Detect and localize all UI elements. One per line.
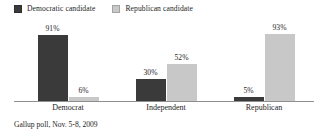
legend-entry-democratic: Democratic candidate <box>14 5 95 13</box>
bar-wrap-republican-democratic: 5% <box>234 22 264 101</box>
source-note: Gallup poll, Nov. 5-8, 2009 <box>14 121 98 129</box>
bar-value-label: 5% <box>243 87 253 95</box>
x-tick-label-republican: Republican <box>216 104 312 112</box>
bar-independent-republican <box>167 64 197 101</box>
bar-democrat-democratic <box>38 35 68 101</box>
bar-value-label: 52% <box>175 54 189 62</box>
legend-swatch-democratic <box>14 5 22 13</box>
legend-label-republican: Republican candidate <box>125 5 193 13</box>
x-axis-baseline <box>14 101 314 102</box>
bar-group-democrat: 91% 6% <box>20 22 116 101</box>
x-tick-label-democrat: Democrat <box>20 104 116 112</box>
x-axis-tick-labels: Democrat Independent Republican <box>14 104 314 116</box>
legend-label-democratic: Democratic candidate <box>27 5 95 13</box>
bar-wrap-democrat-democratic: 91% <box>38 22 68 101</box>
chart-legend: Democratic candidate Republican candidat… <box>0 0 328 18</box>
legend-entry-republican: Republican candidate <box>112 5 193 13</box>
bar-wrap-republican-republican: 93% <box>265 22 295 101</box>
bar-group-independent: 30% 52% <box>118 22 214 101</box>
bar-chart-figure: Democratic candidate Republican candidat… <box>0 0 328 136</box>
plot-area: 91% 6% 30% 52% 5% 93% <box>14 22 314 102</box>
legend-swatch-republican <box>112 5 120 13</box>
bar-wrap-democrat-republican: 6% <box>69 22 99 101</box>
bar-value-label: 93% <box>273 24 287 32</box>
bar-republican-republican <box>265 34 295 101</box>
bar-wrap-independent-republican: 52% <box>167 22 197 101</box>
x-tick-label-independent: Independent <box>118 104 214 112</box>
bar-value-label: 30% <box>144 69 158 77</box>
bar-independent-democratic <box>136 79 166 101</box>
bar-value-label: 91% <box>46 25 60 33</box>
bar-value-label: 6% <box>78 87 88 95</box>
bar-group-republican: 5% 93% <box>216 22 312 101</box>
bar-wrap-independent-democratic: 30% <box>136 22 166 101</box>
